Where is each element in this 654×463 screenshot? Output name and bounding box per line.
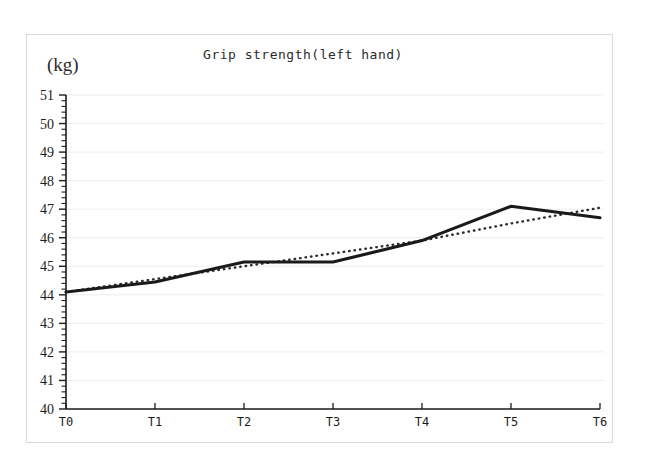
y-tick-label: 46 bbox=[40, 231, 54, 246]
x-tick-label: T4 bbox=[415, 415, 429, 429]
x-axis-tick-labels: T0T1T2T3T4T5T6 bbox=[59, 415, 607, 429]
trend-line-series bbox=[66, 208, 600, 292]
gridlines bbox=[66, 95, 604, 409]
y-tick-label: 47 bbox=[40, 202, 54, 217]
x-tick-label: T2 bbox=[237, 415, 251, 429]
y-tick-label: 44 bbox=[40, 288, 54, 303]
x-tick-label: T5 bbox=[504, 415, 518, 429]
y-tick-label: 48 bbox=[40, 174, 54, 189]
y-tick-label: 41 bbox=[40, 373, 54, 388]
y-tick-label: 50 bbox=[40, 117, 54, 132]
y-tick-label: 49 bbox=[40, 145, 54, 160]
x-tick-label: T3 bbox=[326, 415, 340, 429]
x-axis-ticks bbox=[66, 403, 600, 409]
data-line-series bbox=[66, 206, 600, 292]
y-axis-minor-ticks bbox=[59, 95, 66, 409]
data-line bbox=[66, 206, 600, 292]
x-tick-label: T6 bbox=[593, 415, 607, 429]
y-tick-label: 45 bbox=[40, 259, 54, 274]
y-tick-label: 42 bbox=[40, 345, 54, 360]
y-axis-tick-labels: 404142434445464748495051 bbox=[40, 88, 54, 417]
y-tick-label: 40 bbox=[40, 402, 54, 417]
x-tick-label: T0 bbox=[59, 415, 73, 429]
x-tick-label: T1 bbox=[148, 415, 162, 429]
y-tick-label: 51 bbox=[40, 88, 54, 103]
trend-line bbox=[66, 208, 600, 292]
chart-plot-area: 404142434445464748495051 T0T1T2T3T4T5T6 bbox=[0, 0, 654, 463]
y-tick-label: 43 bbox=[40, 316, 54, 331]
chart-page: Grip strength(left hand) (kg) 4041424344… bbox=[0, 0, 654, 463]
